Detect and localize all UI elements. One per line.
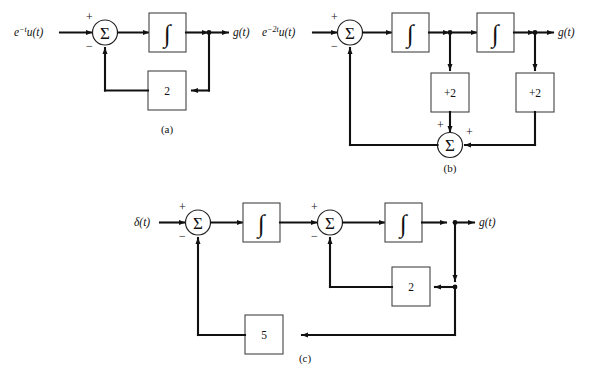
bottom-summer-plus-right-b: + [466, 125, 473, 139]
block-diagram-figure: e−tu(t) Σ + − ∫ g(t) 2 (a) e−2tu(t) [0, 0, 599, 366]
integrator-symbol-1-c: ∫ [256, 210, 266, 239]
integrator-symbol-2-b: ∫ [490, 20, 500, 49]
input-label-c: δ(t) [134, 216, 150, 229]
summer-2-minus-c: − [311, 229, 318, 243]
output-label-a: g(t) [233, 26, 250, 39]
summer-b-symbol: Σ [345, 24, 355, 43]
caption-c: (c) [299, 352, 312, 365]
subfigure-c: δ(t) Σ + − ∫ Σ + − ∫ g(t) [134, 200, 496, 365]
output-label-c: g(t) [479, 216, 496, 229]
subfigure-b: e−2tu(t) Σ + − ∫ ∫ g(t) +2 +2 [262, 10, 575, 175]
integrator-symbol-1-b: ∫ [405, 20, 415, 49]
summer-1-plus-c: + [179, 200, 186, 214]
summer-a-symbol: Σ [100, 24, 110, 43]
bottom-summer-plus-top-b: + [437, 118, 444, 132]
summer-2-symbol-c: Σ [325, 214, 335, 233]
input-label-a: e−tu(t) [14, 25, 44, 39]
bottom-summer-symbol-b: Σ [445, 136, 455, 155]
summer-1-symbol-c: Σ [193, 214, 203, 233]
caption-b: (b) [444, 162, 457, 175]
gain-value-2-b: +2 [529, 87, 541, 99]
integrator-symbol-a: ∫ [162, 20, 172, 49]
summer-b-plus: + [331, 10, 338, 24]
summer-2-plus-c: + [311, 200, 318, 214]
output-label-b: g(t) [558, 26, 575, 39]
gain-value-outer-c: 5 [261, 329, 267, 341]
integrator-symbol-2-c: ∫ [398, 210, 408, 239]
subfigure-a: e−tu(t) Σ + − ∫ g(t) 2 (a) [14, 10, 250, 136]
gain-value-inner-c: 2 [408, 281, 414, 293]
caption-a: (a) [161, 123, 174, 136]
gain-value-a: 2 [164, 85, 170, 97]
input-label-b: e−2tu(t) [262, 25, 296, 39]
summer-a-plus: + [86, 10, 93, 24]
summer-a-minus: − [86, 39, 93, 53]
summer-1-minus-c: − [179, 229, 186, 243]
summer-b-minus: − [331, 39, 338, 53]
gain-value-1-b: +2 [444, 87, 456, 99]
